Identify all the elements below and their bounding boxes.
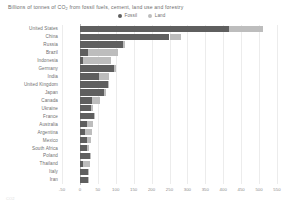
bar-segment-land[interactable] <box>87 121 93 127</box>
bar-segment-land[interactable] <box>88 49 118 55</box>
category-label: Indonesia <box>37 57 58 64</box>
bar-segment-fossil[interactable] <box>80 34 170 40</box>
x-tick-label: 100 <box>112 187 119 192</box>
category-label: United States <box>29 25 58 32</box>
bar-segment-land[interactable] <box>85 129 92 135</box>
category-label: Canada <box>41 97 58 104</box>
category-label: Argentina <box>37 129 58 136</box>
bar-segment-fossil[interactable] <box>80 121 87 127</box>
bar-segment-fossil[interactable] <box>80 89 104 95</box>
bar-row[interactable]: Indonesia <box>62 57 277 65</box>
bar-row[interactable]: Japan <box>62 89 277 97</box>
bar-segment-fossil[interactable] <box>80 81 108 87</box>
bar-row[interactable]: Argentina <box>62 128 277 136</box>
bar-segment-fossil[interactable] <box>80 137 87 143</box>
bar-row[interactable]: Ukraine <box>62 105 277 113</box>
bar-segment-land[interactable] <box>88 177 89 183</box>
gridline-550 <box>277 25 278 184</box>
category-label: Brazil <box>46 49 58 56</box>
bar-segment-land[interactable] <box>87 145 90 151</box>
x-tick-label: 300 <box>184 187 191 192</box>
bar-row[interactable]: Poland <box>62 152 277 160</box>
bar-row[interactable]: France <box>62 112 277 120</box>
bar-segment-land[interactable] <box>91 105 93 111</box>
x-tick-label: 200 <box>148 187 155 192</box>
x-tick-label: 350 <box>202 187 209 192</box>
bar-row[interactable]: South Africa <box>62 144 277 152</box>
x-tick-label: -50 <box>59 187 65 192</box>
bar-segment-fossil[interactable] <box>80 113 94 119</box>
bar-segment-fossil[interactable] <box>80 97 92 103</box>
bar-segment-land[interactable] <box>88 169 89 175</box>
bar-segment-land[interactable] <box>123 41 126 47</box>
bar-segment-fossil[interactable] <box>80 26 229 32</box>
x-tick-label: 0 <box>79 187 81 192</box>
bar-segment-land[interactable] <box>104 89 106 95</box>
category-label: Japan <box>45 89 58 96</box>
category-label: France <box>43 113 58 120</box>
bar-row[interactable]: United Kingdom <box>62 81 277 89</box>
chart-title-suffix: from fossil fuels, cement, land use and … <box>68 4 184 10</box>
bar-row[interactable]: Thailand <box>62 160 277 168</box>
bar-segment-land[interactable] <box>229 26 262 32</box>
bar-row[interactable]: Germany <box>62 65 277 73</box>
category-label: Australia <box>39 121 58 128</box>
x-tick-label: 450 <box>237 187 244 192</box>
bar-segment-land[interactable] <box>90 153 91 159</box>
category-label: Thailand <box>40 160 58 167</box>
category-label: South Africa <box>32 145 58 152</box>
x-axis: -50050100150200250300350400450500550 <box>62 185 277 197</box>
bar-segment-fossil[interactable] <box>80 105 91 111</box>
category-label: India <box>48 73 58 80</box>
bar-segment-land[interactable] <box>114 65 116 71</box>
bar-segment-fossil[interactable] <box>80 145 87 151</box>
bar-segment-fossil[interactable] <box>80 65 114 71</box>
bar-row[interactable]: China <box>62 33 277 41</box>
legend-label: Fossil <box>125 13 138 18</box>
bar-segment-land[interactable] <box>83 161 89 167</box>
bar-segment-land[interactable] <box>83 57 111 63</box>
bar-segment-land[interactable] <box>108 81 109 87</box>
bar-row[interactable]: Iran <box>62 176 277 184</box>
legend-label: Land <box>155 13 166 18</box>
bar-segment-fossil[interactable] <box>80 177 88 183</box>
category-label: Germany <box>38 65 58 72</box>
bar-segment-land[interactable] <box>170 34 182 40</box>
bar-row[interactable]: United States <box>62 25 277 33</box>
x-tick-label: 50 <box>95 187 100 192</box>
x-tick-label: 250 <box>166 187 173 192</box>
bar-segment-fossil[interactable] <box>80 153 90 159</box>
legend-item-land[interactable]: Land <box>148 13 165 18</box>
page-title: Billions of tonnes of CO2 from fossil fu… <box>8 4 183 10</box>
x-tick-label: 500 <box>255 187 262 192</box>
category-label: Russia <box>43 41 58 48</box>
chart-container: Billions of tonnes of CO2 from fossil fu… <box>0 0 293 207</box>
x-tick-label: 400 <box>220 187 227 192</box>
chart-title-subscript: 2 <box>66 7 68 11</box>
bar-row[interactable]: Italy <box>62 168 277 176</box>
bar-segment-fossil[interactable] <box>80 49 88 55</box>
bar-segment-fossil[interactable] <box>80 169 88 175</box>
chart-title-prefix: Billions of tonnes of CO <box>8 4 66 10</box>
x-tick-label: 150 <box>130 187 137 192</box>
category-label: Ukraine <box>41 105 58 112</box>
x-tick-label: 550 <box>273 187 280 192</box>
bar-row[interactable]: Canada <box>62 97 277 105</box>
bar-row[interactable]: Brazil <box>62 49 277 57</box>
bar-row[interactable]: Mexico <box>62 136 277 144</box>
bar-segment-land[interactable] <box>87 137 91 143</box>
bar-segment-land[interactable] <box>92 97 100 103</box>
bar-segment-land[interactable] <box>94 113 95 119</box>
bar-row[interactable]: Russia <box>62 41 277 49</box>
bar-segment-land[interactable] <box>99 73 109 79</box>
bar-row[interactable]: Australia <box>62 120 277 128</box>
bar-row[interactable]: India <box>62 73 277 81</box>
category-label: China <box>45 33 58 40</box>
bar-segment-fossil[interactable] <box>80 41 123 47</box>
legend-swatch-icon <box>148 14 152 18</box>
source-note: CO2 <box>6 196 15 201</box>
bar-segment-fossil[interactable] <box>80 73 99 79</box>
category-label: Italy <box>49 168 58 175</box>
legend-item-fossil[interactable]: Fossil <box>118 13 137 18</box>
category-label: United Kingdom <box>24 81 58 88</box>
